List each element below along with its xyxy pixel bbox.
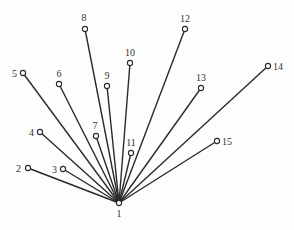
node-2 bbox=[25, 165, 30, 170]
node-label-14: 14 bbox=[273, 61, 283, 72]
edge-1-14 bbox=[119, 66, 268, 203]
node-8 bbox=[82, 26, 87, 31]
labels-group: 123456789101112131415 bbox=[12, 12, 283, 219]
node-5 bbox=[20, 70, 25, 75]
node-label-13: 13 bbox=[196, 72, 206, 83]
node-label-3: 3 bbox=[52, 164, 57, 175]
node-label-4: 4 bbox=[29, 127, 34, 138]
node-7 bbox=[93, 133, 98, 138]
node-10 bbox=[127, 60, 132, 65]
edge-1-15 bbox=[119, 141, 217, 203]
node-label-1: 1 bbox=[117, 208, 122, 219]
node-9 bbox=[104, 83, 109, 88]
diagram-canvas: 123456789101112131415 bbox=[0, 0, 294, 230]
node-label-7: 7 bbox=[93, 120, 98, 131]
node-label-5: 5 bbox=[12, 68, 17, 79]
node-15 bbox=[214, 138, 219, 143]
node-label-15: 15 bbox=[222, 136, 232, 147]
node-13 bbox=[198, 85, 203, 90]
node-label-6: 6 bbox=[57, 68, 62, 79]
edge-1-5 bbox=[23, 73, 119, 203]
node-label-2: 2 bbox=[16, 163, 21, 174]
node-4 bbox=[37, 129, 42, 134]
node-11 bbox=[128, 150, 133, 155]
node-6 bbox=[56, 81, 61, 86]
node-14 bbox=[265, 63, 270, 68]
node-label-10: 10 bbox=[125, 47, 135, 58]
node-label-11: 11 bbox=[126, 137, 136, 148]
node-label-8: 8 bbox=[82, 12, 87, 23]
node-label-9: 9 bbox=[105, 70, 110, 81]
node-label-12: 12 bbox=[180, 13, 190, 24]
node-12 bbox=[182, 26, 187, 31]
node-1 bbox=[116, 200, 121, 205]
edges-group bbox=[23, 29, 268, 203]
node-3 bbox=[60, 166, 65, 171]
star-diagram: 123456789101112131415 bbox=[0, 0, 294, 230]
